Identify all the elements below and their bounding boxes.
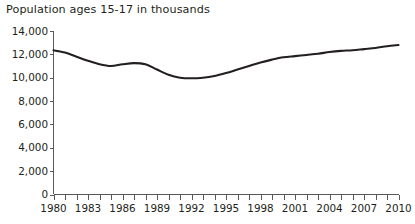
y-axis-tick-marks — [50, 32, 54, 196]
x-axis-tick-label: 2010 — [385, 202, 411, 214]
x-axis-tick-labels: 1980198319861989199219951998200120042007… — [40, 202, 411, 214]
y-axis-tick-label: 0 — [41, 188, 48, 200]
y-axis-tick-label: 12,000 — [12, 48, 48, 60]
y-axis-tick-label: 8,000 — [18, 95, 48, 107]
x-axis-tick-label: 2007 — [351, 202, 377, 214]
y-axis-tick-label: 14,000 — [12, 25, 48, 37]
y-axis-tick-label: 10,000 — [12, 71, 48, 83]
x-axis-tick-label: 1980 — [40, 202, 66, 214]
x-axis-tick-marks — [55, 195, 400, 200]
x-axis-tick-label: 1983 — [75, 202, 101, 214]
x-axis-tick-label: 1995 — [213, 202, 239, 214]
x-axis-tick-label: 2004 — [316, 202, 343, 214]
y-axis-tick-label: 6,000 — [18, 118, 48, 130]
x-axis-tick-label: 1986 — [109, 202, 135, 214]
x-axis-tick-label: 2001 — [282, 202, 308, 214]
x-axis-tick-label: 1989 — [144, 202, 170, 214]
x-axis-tick-label: 1998 — [247, 202, 273, 214]
y-axis-tick-label: 2,000 — [18, 165, 48, 177]
y-axis-tick-label: 4,000 — [18, 141, 48, 153]
y-axis-tick-labels: 02,0004,0006,0008,00010,00012,00014,000 — [12, 25, 48, 201]
data-series-line — [54, 45, 399, 78]
chart-figure: Population ages 15-17 in thousands 02,00… — [0, 0, 415, 224]
x-axis-tick-label: 1992 — [178, 202, 204, 214]
line-chart-plot: 02,0004,0006,0008,00010,00012,00014,000 … — [0, 0, 415, 224]
